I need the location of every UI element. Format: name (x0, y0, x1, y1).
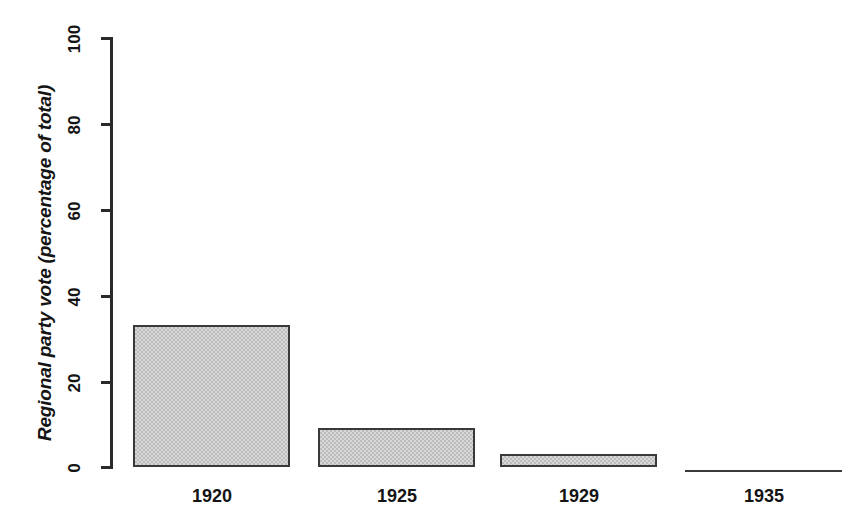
x-tick-label-1920: 1920 (152, 486, 272, 507)
bar-1929 (500, 454, 657, 467)
bar-chart-figure: Regional party vote (percentage of total… (0, 0, 860, 528)
bar-1925 (318, 428, 475, 467)
x-tick-label-1925: 1925 (337, 486, 457, 507)
bar-1920 (133, 325, 290, 467)
x-tick-label-1935: 1935 (704, 486, 824, 507)
plot-area: 1920 1925 1929 1935 (0, 0, 860, 528)
bar-1935 (685, 470, 842, 472)
x-tick-label-1929: 1929 (519, 486, 639, 507)
